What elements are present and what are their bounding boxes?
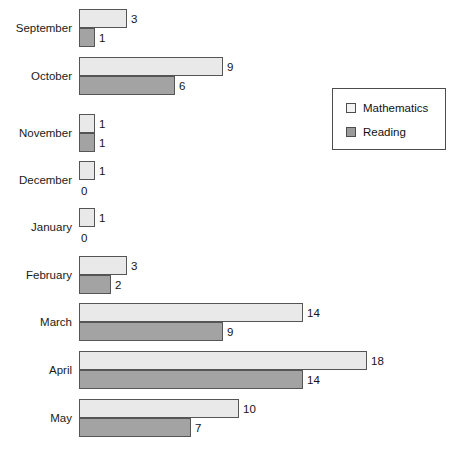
chart-row: March 14 9 <box>0 303 454 341</box>
chart-row: September 3 1 <box>0 9 454 47</box>
bar-value-reading: 7 <box>195 421 201 435</box>
legend-swatch-icon <box>346 103 356 113</box>
category-label: November <box>0 125 72 141</box>
bar-reading[interactable] <box>79 76 175 95</box>
bar-value-reading: 1 <box>99 136 105 150</box>
bar-value-mathematics: 1 <box>99 164 105 178</box>
bar-mathematics[interactable] <box>79 114 95 133</box>
bar-reading[interactable] <box>79 418 191 437</box>
bar-value-mathematics: 9 <box>227 60 233 74</box>
bar-mathematics[interactable] <box>79 9 127 28</box>
bar-value-mathematics: 1 <box>99 211 105 225</box>
category-label: February <box>0 267 72 283</box>
category-label: March <box>0 314 72 330</box>
bar-value-reading: 0 <box>81 184 87 198</box>
bar-value-mathematics: 3 <box>131 259 137 273</box>
category-label: April <box>0 362 72 378</box>
bar-reading[interactable] <box>79 370 303 389</box>
legend-label-mathematics: Mathematics <box>363 102 428 115</box>
bar-mathematics[interactable] <box>79 351 367 370</box>
legend-item-mathematics[interactable]: Mathematics <box>346 101 428 115</box>
bar-value-reading: 6 <box>179 79 185 93</box>
legend-label-reading: Reading <box>363 126 406 139</box>
bar-mathematics[interactable] <box>79 399 239 418</box>
bar-value-mathematics: 10 <box>243 402 256 416</box>
bar-value-reading: 2 <box>115 278 121 292</box>
category-label: September <box>0 20 72 36</box>
category-label: December <box>0 172 72 188</box>
chart-legend: Mathematics Reading <box>332 88 446 150</box>
chart-row: December 1 0 <box>0 161 454 199</box>
bar-value-mathematics: 14 <box>307 306 320 320</box>
chart-row: February 3 2 <box>0 256 454 294</box>
bar-value-mathematics: 18 <box>371 354 384 368</box>
bar-value-mathematics: 1 <box>99 117 105 131</box>
legend-item-reading[interactable]: Reading <box>346 125 406 139</box>
bar-value-reading: 14 <box>307 373 320 387</box>
chart-row: April 18 14 <box>0 351 454 389</box>
bar-mathematics[interactable] <box>79 303 303 322</box>
chart-row: May 10 7 <box>0 399 454 437</box>
bar-value-reading: 9 <box>227 325 233 339</box>
bar-reading[interactable] <box>79 322 223 341</box>
horizontal-bar-chart: September 3 1 October 9 6 November 1 1 D… <box>0 0 454 461</box>
bar-reading[interactable] <box>79 275 111 294</box>
chart-row: January 1 0 <box>0 208 454 246</box>
bar-mathematics[interactable] <box>79 161 95 180</box>
bar-mathematics[interactable] <box>79 256 127 275</box>
bar-mathematics[interactable] <box>79 57 223 76</box>
category-label: May <box>0 410 72 426</box>
bar-value-reading: 0 <box>81 231 87 245</box>
bar-value-mathematics: 3 <box>131 12 137 26</box>
bar-reading[interactable] <box>79 28 95 47</box>
bar-reading[interactable] <box>79 133 95 152</box>
category-label: October <box>0 68 72 84</box>
category-label: January <box>0 219 72 235</box>
bar-value-reading: 1 <box>99 31 105 45</box>
bar-mathematics[interactable] <box>79 208 95 227</box>
legend-swatch-icon <box>346 127 356 137</box>
